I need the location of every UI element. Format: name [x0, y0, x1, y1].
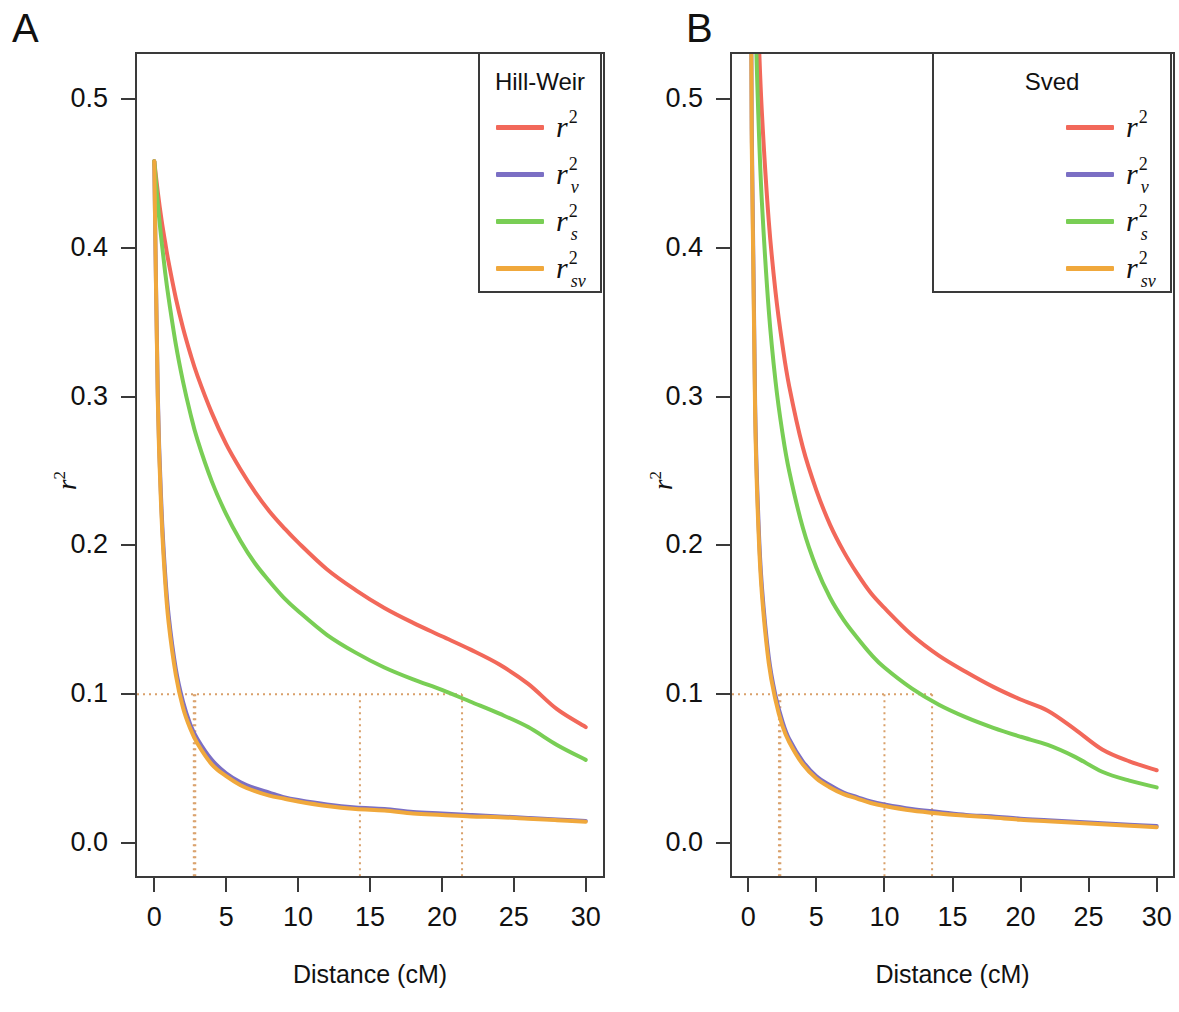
y-tick-label-0.4: 0.4: [20, 234, 108, 261]
y-axis-title-exponent-b: 2: [646, 471, 665, 480]
x-tick-5: [815, 878, 817, 892]
x-tick-label-20: 20: [407, 904, 477, 931]
legend-entry-r2_v: r2v: [1066, 157, 1166, 191]
legend-swatch-r2: [1066, 125, 1114, 130]
x-tick-25: [513, 878, 515, 892]
legend-label-r2_s: r2s: [1126, 204, 1154, 238]
x-tick-20: [441, 878, 443, 892]
y-tick-label-0.5: 0.5: [615, 85, 703, 112]
x-axis-title-b: Distance (cM): [730, 960, 1175, 989]
y-tick-0.1: [716, 693, 730, 695]
x-tick-label-10: 10: [263, 904, 333, 931]
legend-label-r2_v: r2v: [1126, 157, 1155, 191]
panel-a-letter: A: [12, 8, 39, 48]
x-tick-label-15: 15: [335, 904, 405, 931]
panel-b: B 0510152025300.00.10.20.30.40.5 Distanc…: [620, 0, 1172, 1012]
y-tick-0.5: [716, 98, 730, 100]
y-tick-0.3: [121, 396, 135, 398]
y-axis-title-b: r2: [648, 471, 679, 490]
x-tick-20: [1020, 878, 1022, 892]
legend-swatch-r2_v: [1066, 172, 1114, 177]
x-tick-15: [369, 878, 371, 892]
legend-swatch-r2_sv: [1066, 266, 1114, 271]
y-tick-0.1: [121, 693, 135, 695]
y-tick-label-0.3: 0.3: [20, 383, 108, 410]
legend-label-r2_sv: r2sv: [556, 251, 592, 285]
legend-swatch-r2_sv: [496, 266, 544, 271]
x-tick-15: [952, 878, 954, 892]
x-tick-0: [747, 878, 749, 892]
legend-swatch-r2_s: [1066, 219, 1114, 224]
y-axis-title-exponent-a: 2: [50, 471, 69, 480]
x-tick-label-25: 25: [479, 904, 549, 931]
x-tick-label-30: 30: [551, 904, 621, 931]
x-tick-label-5: 5: [781, 904, 851, 931]
legend-swatch-r2: [496, 125, 544, 130]
x-tick-label-5: 5: [191, 904, 261, 931]
legend-entry-r2_sv: r2sv: [496, 251, 596, 285]
y-tick-0.3: [716, 396, 730, 398]
x-tick-25: [1088, 878, 1090, 892]
legend-title-a: Hill-Weir: [480, 68, 600, 96]
legend-entry-r2: r2: [496, 110, 596, 144]
y-tick-label-0.0: 0.0: [20, 829, 108, 856]
x-tick-30: [1156, 878, 1158, 892]
legend-swatch-r2_v: [496, 172, 544, 177]
x-tick-30: [585, 878, 587, 892]
y-axis-title-text-b: r: [648, 479, 678, 490]
legend-title-b: Sved: [934, 68, 1170, 96]
x-tick-10: [297, 878, 299, 892]
x-axis-title-a: Distance (cM): [135, 960, 605, 989]
y-tick-0.2: [716, 544, 730, 546]
legend-entry-r2_sv: r2sv: [1066, 251, 1166, 285]
y-axis-title-text-a: r: [52, 479, 82, 490]
legend-entry-r2_s: r2s: [1066, 204, 1166, 238]
y-tick-0.2: [121, 544, 135, 546]
legend-entry-r2: r2: [1066, 110, 1166, 144]
y-tick-label-0.2: 0.2: [615, 531, 703, 558]
x-tick-0: [153, 878, 155, 892]
y-tick-label-0.2: 0.2: [20, 531, 108, 558]
y-tick-label-0.1: 0.1: [615, 680, 703, 707]
panel-b-letter: B: [686, 8, 713, 48]
y-tick-0.0: [121, 842, 135, 844]
x-axis-title-text-a: Distance (cM): [293, 960, 447, 988]
y-tick-label-0.1: 0.1: [20, 680, 108, 707]
x-tick-label-25: 25: [1054, 904, 1124, 931]
legend-entry-r2_s: r2s: [496, 204, 596, 238]
x-axis-title-text-b: Distance (cM): [875, 960, 1029, 988]
legend-label-r2_sv: r2sv: [1126, 251, 1162, 285]
legend-label-r2_s: r2s: [556, 204, 584, 238]
y-tick-label-0.5: 0.5: [20, 85, 108, 112]
y-tick-0.4: [716, 247, 730, 249]
x-tick-label-0: 0: [119, 904, 189, 931]
panel-a: A 0510152025300.00.10.20.30.40.5 Distanc…: [0, 0, 620, 1012]
x-tick-label-15: 15: [918, 904, 988, 931]
x-tick-label-20: 20: [986, 904, 1056, 931]
legend-entry-r2_v: r2v: [496, 157, 596, 191]
legend-label-r2_v: r2v: [556, 157, 585, 191]
y-tick-label-0.4: 0.4: [615, 234, 703, 261]
x-tick-label-30: 30: [1122, 904, 1179, 931]
y-tick-label-0.3: 0.3: [615, 383, 703, 410]
legend-swatch-r2_s: [496, 219, 544, 224]
x-tick-5: [225, 878, 227, 892]
y-tick-0.5: [121, 98, 135, 100]
x-tick-label-0: 0: [713, 904, 783, 931]
x-tick-10: [883, 878, 885, 892]
x-tick-label-10: 10: [849, 904, 919, 931]
legend-label-r2: r2: [1126, 110, 1147, 144]
y-tick-0.0: [716, 842, 730, 844]
y-tick-label-0.0: 0.0: [615, 829, 703, 856]
legend-label-r2: r2: [556, 110, 577, 144]
y-axis-title-a: r2: [52, 471, 83, 490]
y-tick-0.4: [121, 247, 135, 249]
